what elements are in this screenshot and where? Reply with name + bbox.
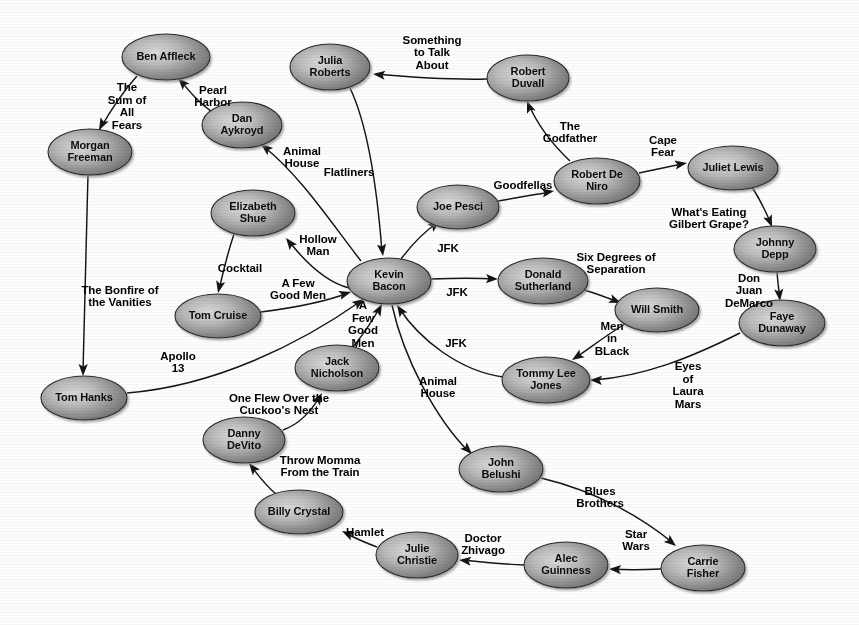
- edge-line: [431, 278, 495, 279]
- node-label: Juliet Lewis: [702, 161, 763, 173]
- graph-node-robert_de_niro[interactable]: Robert DeNiro: [554, 158, 640, 204]
- edge-label: Six Degrees ofSeparation: [576, 251, 655, 276]
- edge-label: PearlHarbor: [194, 84, 232, 109]
- graph-edge: [459, 555, 524, 565]
- edge-label: JFK: [445, 337, 467, 349]
- edge-line: [462, 560, 524, 565]
- node-label: Joe Pesci: [433, 200, 483, 212]
- graph-edge: [431, 274, 498, 284]
- graph-node-john_belushi[interactable]: JohnBelushi: [459, 446, 543, 492]
- graph-node-morgan_freeman[interactable]: MorganFreeman: [48, 129, 132, 175]
- edge-arrowhead: [214, 280, 226, 294]
- edge-arrowhead: [590, 375, 602, 385]
- node-label: Ben Affleck: [136, 50, 196, 62]
- node-label: Billy Crystal: [268, 505, 330, 517]
- edge-label: AnimalHouse: [283, 145, 321, 170]
- edge-label: Flatliners: [324, 166, 375, 178]
- edge-label: One Flew Over theCuckoo's Nest: [229, 392, 329, 417]
- graph-node-billy_crystal[interactable]: Billy Crystal: [255, 490, 343, 534]
- node-label: CarrieFisher: [687, 555, 720, 579]
- graph-edge: [245, 460, 276, 494]
- graph-edge: [774, 272, 784, 301]
- edge-label: EyesofLauraMars: [672, 360, 704, 410]
- graph-edge: [609, 564, 661, 574]
- edge-line: [401, 223, 437, 259]
- graph-node-jack_nicholson[interactable]: JackNicholson: [295, 345, 379, 391]
- edge-label: CapeFear: [649, 134, 677, 159]
- edge-label: StarWars: [622, 528, 650, 553]
- edge-arrowhead: [674, 158, 687, 169]
- graph-node-ben_affleck[interactable]: Ben Affleck: [122, 34, 210, 80]
- graph-node-tommy_lee_jones[interactable]: Tommy LeeJones: [502, 357, 590, 403]
- edge-label: Somethingto TalkAbout: [403, 34, 462, 71]
- graph-node-will_smith[interactable]: Will Smith: [615, 288, 699, 332]
- graph-node-johnny_depp[interactable]: JohnnyDepp: [734, 226, 816, 272]
- edge-line: [612, 569, 661, 570]
- edge-label: A FewGood Men: [270, 277, 326, 302]
- edge-label: AnimalHouse: [419, 375, 457, 400]
- node-label: Tom Hanks: [55, 391, 113, 403]
- node-label: Will Smith: [631, 303, 683, 315]
- graph-node-joe_pesci[interactable]: Joe Pesci: [417, 185, 499, 229]
- graph-node-dan_aykroyd[interactable]: DanAykroyd: [202, 102, 282, 148]
- node-label: MorganFreeman: [67, 139, 113, 163]
- edge-label: Throw MommaFrom the Train: [280, 454, 361, 479]
- edge-label: BluesBrothers: [576, 485, 624, 510]
- graph-node-danny_devito[interactable]: DannyDeVito: [203, 417, 285, 463]
- graph-edge: [639, 158, 688, 173]
- graph-node-julia_roberts[interactable]: JuliaRoberts: [290, 44, 370, 90]
- edge-label: TheGodfather: [543, 120, 598, 145]
- graph-node-donald_sutherland[interactable]: DonaldSutherland: [498, 258, 588, 304]
- node-layer: Ben AffleckJuliaRobertsRobertDuvallDanAy…: [41, 34, 825, 591]
- graph-edge: [373, 69, 487, 79]
- edge-label: Apollo13: [160, 350, 195, 375]
- graph-node-elizabeth_shue[interactable]: ElizabethShue: [211, 190, 295, 236]
- edge-arrowhead: [393, 302, 407, 317]
- edge-label: DoctorZhivago: [461, 532, 505, 557]
- graph-node-robert_duvall[interactable]: RobertDuvall: [487, 55, 569, 101]
- edge-label: DonJuanDeMarco: [725, 272, 773, 309]
- graph-node-tom_hanks[interactable]: Tom Hanks: [41, 376, 127, 420]
- edge-label: Goodfellas: [494, 179, 553, 191]
- graph-node-alec_guinness[interactable]: AlecGuinness: [524, 542, 608, 588]
- edge-line: [498, 192, 551, 201]
- graph-canvas: Ben AffleckJuliaRobertsRobertDuvallDanAy…: [0, 0, 859, 625]
- edge-label: What's EatingGilbert Grape?: [669, 206, 749, 231]
- edge-line: [376, 74, 487, 79]
- graph-node-carrie_fisher[interactable]: CarrieFisher: [661, 545, 745, 591]
- graph-node-kevin_bacon[interactable]: KevinBacon: [347, 258, 431, 304]
- node-label: Tom Cruise: [189, 309, 248, 321]
- edge-label: Cocktail: [218, 262, 262, 274]
- edge-line: [83, 175, 88, 372]
- edge-label: JFK: [446, 286, 468, 298]
- graph-node-juliet_lewis[interactable]: Juliet Lewis: [688, 146, 778, 190]
- graph-node-julie_christie[interactable]: JulieChristie: [376, 532, 458, 578]
- edge-label: Hamlet: [346, 526, 384, 538]
- node-label: DannyDeVito: [227, 427, 262, 451]
- node-label: KevinBacon: [372, 268, 405, 292]
- graph-edge: [78, 175, 88, 376]
- edge-label: The Bonfire ofthe Vanities: [81, 284, 158, 309]
- kevin-bacon-graph-figure: Ben AffleckJuliaRobertsRobertDuvallDanAy…: [0, 0, 859, 625]
- graph-node-tom_cruise[interactable]: Tom Cruise: [175, 294, 261, 338]
- edge-label: JFK: [437, 242, 459, 254]
- node-label: RobertDuvall: [511, 65, 546, 89]
- edge-arrowhead: [377, 244, 388, 257]
- graph-edge: [752, 187, 776, 229]
- edge-label: HollowMan: [299, 233, 336, 258]
